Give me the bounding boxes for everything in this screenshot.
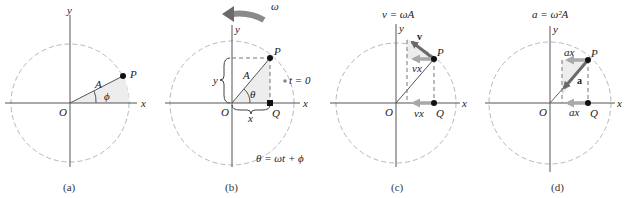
caption-a: (a) [63, 181, 76, 194]
theta-label: θ [250, 88, 256, 100]
x-axis-label: x [616, 97, 622, 109]
omega-label: ω [271, 0, 279, 12]
rotation-arrow-body [232, 14, 264, 20]
point-q [267, 100, 273, 106]
panel-a: y x O P A ϕ (a) [5, 4, 146, 194]
y-component-label: y [212, 74, 218, 86]
radius-label: A [242, 69, 250, 81]
shm-reference-circle-figure: y x O P A ϕ (a) ω y x O P Q A θ y x [0, 0, 625, 198]
acceleration-vector-label: a [577, 75, 582, 86]
velocity-equation: v = ωA [382, 8, 415, 20]
point-q-label: Q [272, 107, 280, 119]
origin-label: O [539, 106, 547, 118]
x-axis-label: x [302, 97, 308, 109]
x-axis-label: x [461, 97, 467, 109]
radius-label: A [94, 78, 102, 90]
point-p-label: P [436, 46, 444, 58]
caption-b: (b) [225, 181, 238, 194]
point-q-label: Q [436, 107, 444, 119]
acceleration-component-top-label: ax [564, 46, 575, 58]
t0-label: t = 0 [289, 74, 311, 86]
y-axis-label: y [552, 23, 558, 35]
point-q [431, 100, 437, 106]
rotation-arrow-icon [222, 6, 234, 22]
point-q-label: Q [590, 107, 598, 119]
caption-c: (c) [391, 181, 404, 194]
t0-marker [283, 79, 287, 83]
acceleration-equation: a = ω²A [532, 8, 568, 20]
x-component-label: x [247, 112, 253, 124]
acceleration-component-bottom-label: ax [569, 106, 580, 118]
panel-d: a = ω²A y x O P Q a ax ax (d) [485, 8, 622, 194]
point-p [120, 73, 126, 79]
y-axis-label: y [398, 22, 404, 34]
velocity-vector-label: v [417, 31, 422, 42]
panel-b: ω y x O P Q A θ y x t = 0 θ = ωt + ϕ (b) [165, 0, 311, 194]
point-p-label: P [590, 47, 598, 59]
point-p-label: P [129, 68, 137, 80]
velocity-component-bottom-label: vx [414, 107, 424, 119]
y-axis-label: y [234, 23, 240, 35]
point-p-label: P [273, 45, 281, 57]
origin-label: O [221, 106, 229, 118]
point-p [267, 55, 273, 61]
x-axis-label: x [140, 97, 146, 109]
panel-c: v = ωA y x O P Q v vx vx (c) [330, 8, 467, 194]
angle-label: ϕ [104, 90, 110, 102]
origin-label: O [59, 106, 67, 118]
caption-d: (d) [551, 181, 564, 194]
point-q [585, 100, 591, 106]
origin-label: O [385, 106, 393, 118]
theta-equation: θ = ωt + ϕ [256, 152, 304, 164]
velocity-component-top-label: vx [412, 62, 422, 74]
y-brace [220, 58, 230, 103]
y-axis-label: y [66, 4, 72, 16]
